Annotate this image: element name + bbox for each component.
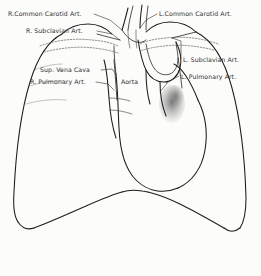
leader-r-common-carotid	[94, 14, 122, 30]
right-common-carotid-artery	[122, 8, 128, 30]
clavicle-outlines	[40, 37, 218, 53]
left-hemidiaphragm	[148, 192, 224, 228]
right-costophrenic-angle	[18, 222, 34, 229]
chest-diagram-figure: R.Common Carotid Art. R. Subclavian Art.…	[0, 0, 261, 276]
leader-sup-vena-cava	[101, 69, 116, 74]
chest-radiograph-drawing: R.Common Carotid Art. R. Subclavian Art.…	[0, 0, 261, 276]
label-superior-vena-cava: Sup. Vena Cava	[40, 66, 90, 74]
leader-l-subclavian	[172, 38, 181, 59]
right-pulmonary-artery-lower	[110, 110, 132, 114]
label-l-pulmonary-artery: L. Pulmonary Art.	[181, 73, 236, 81]
right-lung-lateral-border	[14, 34, 62, 222]
left-costophrenic-angle	[224, 228, 240, 231]
label-r-subclavian-artery: R. Subclavian Art.	[26, 27, 83, 34]
leader-r-pulmonary	[96, 82, 114, 90]
leader-r-subclavian	[97, 31, 120, 40]
left-lung-apex	[146, 22, 196, 32]
right-clavicle-upper-border	[40, 39, 118, 46]
label-aorta: Aorta	[121, 78, 138, 85]
right-pulmonary-artery-upper	[109, 98, 130, 101]
cardiophrenic-notch	[122, 190, 148, 192]
trachea-right-wall	[136, 30, 137, 48]
innominate-artery	[122, 30, 146, 42]
aortic-arch-inner-wall	[146, 44, 178, 75]
diaphragm-group	[34, 190, 224, 228]
right-subclavian-artery	[97, 34, 120, 40]
lung-outlines	[14, 22, 246, 231]
left-carotid-medial-wall	[146, 6, 148, 30]
aortic-arch-outer-wall	[138, 40, 181, 82]
right-carotid-medial-wall	[128, 6, 133, 30]
right-hemidiaphragm	[34, 192, 122, 228]
label-r-common-carotid-artery: R.Common Carotid Art.	[8, 10, 82, 17]
label-r-pulmonary-artery: R. Pulmonary Art.	[30, 78, 86, 86]
great-vessels	[97, 5, 196, 138]
label-l-subclavian-artery: L. Subclavian Art.	[183, 56, 239, 63]
left-common-carotid-artery	[140, 5, 142, 28]
left-hilum-shading	[159, 85, 185, 123]
label-l-common-carotid-artery: L.Common Carotid Art.	[159, 10, 232, 17]
rib-mark	[26, 100, 66, 104]
right-clavicle-lower-border	[44, 47, 118, 53]
